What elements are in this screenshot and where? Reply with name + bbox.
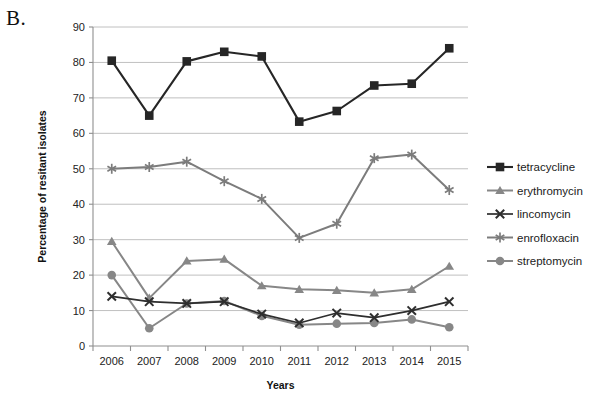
legend-label-tetracycline: tetracycline	[517, 161, 575, 173]
legend-item-erythromycin[interactable]: erythromycin	[487, 185, 583, 197]
y-tick-label: 70	[73, 92, 85, 104]
legend-item-lincomycin[interactable]: lincomycin	[487, 208, 571, 220]
y-tick-label: 20	[73, 269, 85, 281]
y-tick-label: 50	[73, 163, 85, 175]
legend-label-lincomycin: lincomycin	[517, 208, 571, 220]
legend-label-enrofloxacin: enrofloxacin	[517, 232, 579, 244]
x-tick-label: 2013	[362, 355, 386, 367]
x-tick-label: 2008	[175, 355, 199, 367]
y-tick-label: 60	[73, 127, 85, 139]
legend-item-tetracycline[interactable]: tetracycline	[487, 161, 575, 173]
x-tick-label: 2009	[212, 355, 236, 367]
x-tick-label: 2010	[250, 355, 274, 367]
legend-label-streptomycin: streptomycin	[517, 255, 582, 267]
chart-svg: 0102030405060708090 20062007200820092010…	[0, 0, 597, 400]
y-tick-label: 10	[73, 305, 85, 317]
chart-legend: tetracyclineerythromycinlincomycinenrofl…	[487, 161, 583, 267]
x-tick-label: 2007	[137, 355, 161, 367]
x-tick-label: 2012	[325, 355, 349, 367]
series-erythromycin	[107, 237, 454, 302]
y-tick-labels: 0102030405060708090	[73, 21, 85, 352]
legend-item-streptomycin[interactable]: streptomycin	[487, 255, 582, 267]
line-chart: 0102030405060708090 20062007200820092010…	[0, 0, 597, 400]
y-axis	[89, 27, 93, 346]
y-tick-label: 90	[73, 21, 85, 33]
y-tick-label: 30	[73, 234, 85, 246]
x-tick-labels: 2006200720082009201020112012201320142015	[100, 355, 462, 367]
x-tick-label: 2014	[400, 355, 424, 367]
data-series	[107, 44, 454, 333]
x-tick-label: 2006	[100, 355, 124, 367]
y-tick-label: 40	[73, 198, 85, 210]
y-tick-label: 80	[73, 56, 85, 68]
series-enrofloxacin	[107, 150, 453, 243]
series-tetracycline	[107, 44, 453, 126]
y-axis-title: Percentage of resitant isolates	[36, 110, 48, 262]
x-tick-label: 2015	[437, 355, 461, 367]
legend-item-enrofloxacin[interactable]: enrofloxacin	[487, 232, 579, 244]
x-axis-title: Years	[266, 379, 294, 391]
x-tick-label: 2011	[287, 355, 311, 367]
legend-label-erythromycin: erythromycin	[517, 185, 583, 197]
x-axis	[93, 346, 468, 351]
y-tick-label: 0	[79, 340, 85, 352]
